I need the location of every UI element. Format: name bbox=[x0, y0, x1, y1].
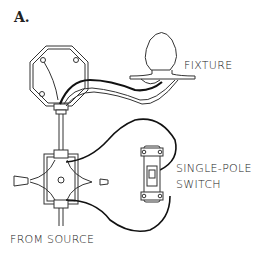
switch-label-line2: SWITCH bbox=[176, 178, 221, 191]
octagon-box-icon bbox=[30, 46, 88, 106]
wire-nut-icon bbox=[14, 176, 28, 186]
switch-label-line1: SINGLE-POLE bbox=[176, 162, 252, 175]
conduit bbox=[54, 104, 68, 150]
wire-nut-icon bbox=[100, 179, 108, 185]
junction-box-icon bbox=[30, 150, 92, 226]
fixture-label: FIXTURE bbox=[184, 59, 232, 72]
diagram-canvas bbox=[0, 0, 271, 254]
switch-icon bbox=[141, 146, 163, 202]
source-label: FROM SOURCE bbox=[10, 233, 94, 246]
